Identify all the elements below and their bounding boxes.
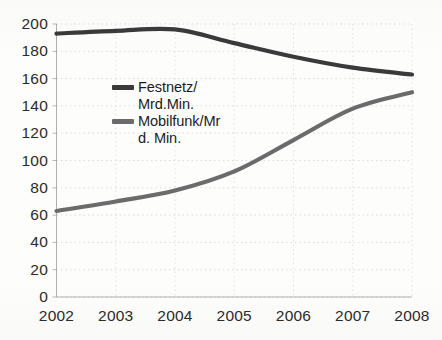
x-axis-tick-label: 2002 <box>27 308 87 324</box>
y-axis-tick-label: 140 <box>2 98 48 114</box>
legend-item-festnetz: Festnetz/ Mrd.Min. <box>112 79 240 112</box>
y-axis-tick-label: 80 <box>2 180 48 196</box>
legend-label-mobilfunk: Mobilfunk/Mr d. Min. <box>138 113 240 146</box>
legend-item-mobilfunk: Mobilfunk/Mr d. Min. <box>112 113 240 146</box>
chart-screenshot: 020406080100120140160180200 200220032004… <box>0 0 442 340</box>
legend-label-festnetz: Festnetz/ Mrd.Min. <box>138 79 240 112</box>
y-axis-tick-label: 100 <box>2 153 48 169</box>
x-axis-tick-label: 2004 <box>145 308 205 324</box>
legend-swatch-festnetz <box>112 85 134 90</box>
legend-swatch-mobilfunk <box>112 119 134 124</box>
y-axis-tick-label: 60 <box>2 207 48 223</box>
y-axis-tick-label: 180 <box>2 43 48 59</box>
x-axis-tick-label: 2007 <box>323 308 383 324</box>
x-axis-tick-label: 2005 <box>204 308 264 324</box>
chart-legend: Festnetz/ Mrd.Min. Mobilfunk/Mr d. Min. <box>112 79 240 147</box>
y-axis-tick-label: 20 <box>2 262 48 278</box>
y-axis-tick-label: 40 <box>2 234 48 250</box>
x-axis-tick-label: 2003 <box>86 308 146 324</box>
line-chart-plot <box>0 0 442 340</box>
y-axis-tick-label: 160 <box>2 71 48 87</box>
x-axis-tick-label: 2008 <box>382 308 442 324</box>
grid-lines <box>57 24 413 297</box>
y-axis-tick-label: 200 <box>2 16 48 32</box>
y-axis-tick-label: 120 <box>2 125 48 141</box>
y-axis-tick-label: 0 <box>2 289 48 305</box>
x-axis-tick-label: 2006 <box>264 308 324 324</box>
